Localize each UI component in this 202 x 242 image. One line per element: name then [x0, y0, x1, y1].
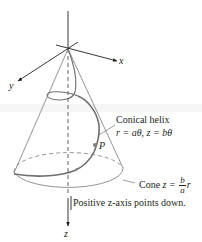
helix-equation: r = aθ, z = bθ — [116, 128, 172, 138]
cone-label: Cone z = b a r — [139, 176, 191, 195]
x-axis — [56, 45, 117, 61]
x-axis-label: x — [119, 56, 123, 66]
cone-left-edge — [14, 49, 68, 173]
helix-title: Conical helix — [116, 115, 170, 125]
helix-main-sweep — [76, 96, 99, 170]
point-p-label: P — [99, 141, 105, 151]
cone-frac-den: a — [179, 186, 186, 195]
helix-top-loop — [47, 49, 78, 100]
helix-eq-r: r = aθ, — [116, 127, 144, 138]
helix-eq-z: z = bθ — [147, 127, 173, 138]
cone-prefix: Cone — [139, 179, 160, 190]
cone-base-back — [14, 153, 123, 172]
cone-fraction: b a — [179, 176, 186, 195]
z-direction-note: Positive z-axis points down. — [73, 198, 186, 208]
cone-base-front — [14, 168, 123, 187]
helix-front-sweep — [14, 170, 76, 176]
conical-helix-figure: x y z Conical helix r = aθ, z = bθ P Con… — [0, 0, 202, 242]
y-axis — [18, 42, 78, 81]
cone-eq-var: r — [187, 179, 191, 190]
helix-base-marker — [76, 168, 78, 170]
y-axis-label: y — [9, 81, 13, 91]
cone-leader-line — [123, 180, 135, 183]
z-axis-label: z — [64, 229, 68, 239]
cone-eq-lhs: z = — [163, 179, 176, 190]
point-p-marker — [93, 143, 97, 147]
